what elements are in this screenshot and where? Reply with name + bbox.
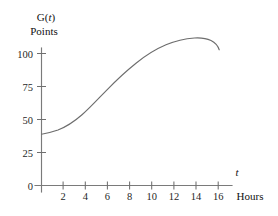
y-tick-label-75: 75 — [23, 82, 34, 93]
y-axis-title-fn: G( — [37, 11, 49, 24]
x-tick-label-14: 14 — [191, 191, 202, 202]
y-axis-units: Points — [30, 25, 58, 37]
y-tick-label-0: 0 — [28, 181, 33, 192]
graph-figure: 100 75 50 25 0 2 4 6 8 10 12 14 16 G(t) … — [0, 0, 278, 216]
g-of-t-curve — [42, 38, 220, 134]
y-axis-title-paren: ) — [52, 11, 56, 24]
x-axis-title-var: t — [235, 166, 239, 178]
x-tick-label-6: 6 — [105, 191, 110, 202]
x-tick-label-16: 16 — [213, 191, 224, 202]
y-tick-label-25: 25 — [23, 148, 34, 159]
y-axis-title: G(t) — [37, 11, 56, 24]
x-tick-label-4: 4 — [83, 191, 89, 202]
function-graph-svg: 100 75 50 25 0 2 4 6 8 10 12 14 16 G(t) … — [0, 0, 278, 216]
x-tick-label-2: 2 — [60, 191, 65, 202]
x-tick-label-10: 10 — [146, 191, 157, 202]
y-tick-label-100: 100 — [17, 49, 33, 60]
y-tick-label-50: 50 — [23, 115, 34, 126]
x-axis-units: Hours — [237, 190, 264, 202]
x-tick-label-8: 8 — [127, 191, 132, 202]
x-tick-label-12: 12 — [169, 191, 180, 202]
